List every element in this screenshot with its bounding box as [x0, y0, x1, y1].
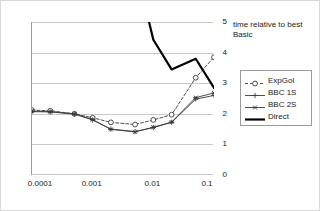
x-tick-label: 0.1 — [201, 179, 212, 188]
chart-legend: ExpGolBBC 1SBBC 2SDirect — [240, 70, 312, 126]
y-tick-label: 5 — [223, 18, 227, 26]
x-tick-label: 0.001 — [82, 179, 102, 188]
x-tick-label: 0.01 — [145, 179, 161, 188]
x-axis: 0.00010.0010.010.1 — [31, 179, 213, 191]
data-point-circle — [133, 122, 138, 127]
series-layer — [32, 22, 214, 175]
y-tick-label: 4 — [223, 49, 227, 57]
legend-item-bbc-2s[interactable]: BBC 2S — [244, 98, 308, 110]
data-point-circle — [253, 81, 258, 86]
y-axis: 012345 — [213, 22, 229, 175]
data-point-circle — [193, 75, 198, 80]
legend-label: BBC 2S — [268, 100, 296, 109]
data-point-star — [252, 105, 257, 109]
series-direct — [149, 22, 214, 88]
plot-area — [31, 22, 213, 175]
data-point-circle — [169, 112, 174, 117]
x-tick-label: 0.0001 — [28, 179, 52, 188]
series-bbc-1s — [32, 93, 214, 134]
y-tick-label: 1 — [223, 140, 227, 148]
series-expgol — [32, 55, 214, 127]
chart-title: time relative to best Basic — [233, 20, 317, 39]
legend-swatch-star-icon — [244, 99, 266, 110]
legend-item-direct[interactable]: Direct — [244, 110, 308, 122]
y-tick-label: 2 — [223, 110, 227, 118]
data-point-plus — [252, 92, 257, 97]
legend-label: ExpGol — [268, 76, 294, 85]
legend-swatch-plus-icon — [244, 87, 266, 98]
data-point-circle — [109, 120, 114, 125]
chart-figure: 012345 0.00010.0010.010.1 time relative … — [0, 0, 320, 211]
legend-label: BBC 1S — [268, 88, 296, 97]
y-tick-label: 3 — [223, 79, 227, 87]
legend-item-bbc-1s[interactable]: BBC 1S — [244, 86, 308, 98]
legend-swatch-circle-icon — [244, 75, 266, 86]
y-tick-label: 0 — [223, 171, 227, 179]
legend-swatch-line-icon — [244, 111, 266, 122]
legend-label: Direct — [268, 112, 289, 121]
legend-item-expgol[interactable]: ExpGol — [244, 74, 308, 86]
data-point-circle — [151, 118, 156, 123]
series-bbc-2s — [32, 91, 214, 134]
